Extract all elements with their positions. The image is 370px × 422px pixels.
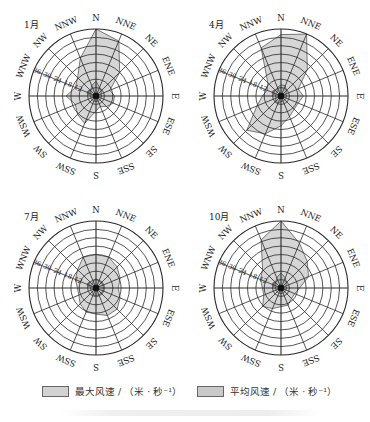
direction-label-n: N [277,13,285,23]
direction-label-ssw: SSW [240,160,263,177]
direction-label-sw: SW [217,335,235,353]
radial-tick-label: 30 [227,262,238,273]
center-hub [93,285,99,291]
radial-tick-label: 18 [63,79,74,90]
direction-label-sw: SW [32,335,50,353]
direction-label-wsw: WSW [14,305,32,331]
radial-tick-label: 24 [52,267,63,278]
direction-label-ne: NE [328,32,345,49]
panel-month-label: 7月 [24,212,39,222]
radial-tick-label: 36 [217,66,228,77]
radial-tick-label: 36 [217,258,228,269]
wind-rose-jul: NNNENEENEEESESESSESSSWSWWSWWWNWNWNNW6121… [13,205,180,372]
radial-tick-label: 36 [32,66,43,77]
radial-tick-label: 18 [248,79,259,90]
direction-label-ese: ESE [345,308,361,329]
legend-item-avg-speed: 平均风速 / （米 · 秒⁻¹） [197,384,337,398]
panel-month-label: 4月 [209,20,224,30]
direction-label-se: SE [144,336,160,352]
direction-label-ne: NE [143,224,160,241]
direction-label-sse: SSE [116,161,136,177]
caption-faint [60,410,320,416]
direction-label-ne: NE [328,224,345,241]
radial-tick-label: 36 [32,258,43,269]
direction-label-nnw: NNW [53,14,79,32]
direction-label-wnw: WNW [14,52,33,79]
direction-label-nw: NW [216,31,235,50]
center-hub [93,93,99,99]
radial-tick-label: 24 [237,75,248,86]
direction-label-se: SE [144,144,160,160]
wind-rose-figure: NNNENEENEEESESESSESSSWSWWSWWWNWNWNNW6121… [0,0,370,422]
radial-tick-label: 24 [52,75,63,86]
direction-label-ese: ESE [160,116,176,137]
legend-label-avg: 平均风速 / （米 · 秒⁻¹） [230,384,337,398]
direction-label-ese: ESE [160,308,176,329]
direction-label-ene: ENE [160,55,177,77]
legend-label-max: 最大风速 / （米 · 秒⁻¹） [75,384,182,398]
direction-label-nnw: NNW [53,206,79,224]
wind-rose-oct: NNNENEENEEESESESSESSSWSWWSWWWNWNWNNW6121… [198,205,365,372]
direction-label-sse: SSE [116,353,136,369]
direction-label-e: E [170,285,180,291]
direction-label-s: S [93,362,99,372]
direction-label-wnw: WNW [14,244,33,271]
direction-label-s: S [278,170,284,180]
radial-tick-label: 18 [248,271,259,282]
radial-tick-label: 24 [237,267,248,278]
wind-rose-apr: NNNENEENEEESESESSESSSWSWWSWWWNWNWNNW6121… [198,13,365,180]
direction-label-ne: NE [143,32,160,49]
direction-label-ene: ENE [345,55,362,77]
direction-label-w: W [13,91,23,100]
direction-label-nnw: NNW [238,14,264,32]
direction-label-nne: NNE [114,15,137,32]
direction-label-nne: NNE [114,207,137,224]
direction-label-se: SE [329,144,345,160]
direction-label-ssw: SSW [55,352,78,369]
direction-label-sw: SW [217,143,235,161]
radial-tick-label: 30 [42,70,53,81]
radial-tick-label: 30 [42,262,53,273]
direction-label-ene: ENE [345,247,362,269]
legend: 最大风速 / （米 · 秒⁻¹） 平均风速 / （米 · 秒⁻¹） [0,384,370,404]
panel-month-label: 1月 [24,20,39,30]
direction-label-ssw: SSW [240,352,263,369]
direction-label-se: SE [329,336,345,352]
direction-label-sse: SSE [301,161,321,177]
direction-label-sw: SW [32,143,50,161]
direction-label-nw: NW [216,223,235,242]
direction-label-n: N [92,205,100,215]
radial-tick-label: 30 [227,70,238,81]
direction-label-ene: ENE [160,247,177,269]
direction-label-e: E [170,93,180,99]
panel-month-label: 10月 [209,212,229,222]
direction-label-s: S [93,170,99,180]
radial-tick-label: 18 [63,271,74,282]
direction-label-w: W [13,283,23,292]
direction-label-w: W [198,91,208,100]
direction-label-e: E [355,285,365,291]
direction-label-n: N [92,13,100,23]
direction-label-nne: NNE [299,207,322,224]
direction-label-wnw: WNW [199,244,218,271]
direction-label-s: S [278,362,284,372]
direction-label-nne: NNE [299,15,322,32]
direction-label-nw: NW [31,223,50,242]
direction-label-nw: NW [31,31,50,50]
direction-label-wsw: WSW [199,305,217,331]
direction-label-nnw: NNW [238,206,264,224]
legend-item-max-speed: 最大风速 / （米 · 秒⁻¹） [42,384,182,398]
direction-label-w: W [198,283,208,292]
direction-label-ssw: SSW [55,160,78,177]
direction-label-wsw: WSW [199,113,217,139]
direction-label-n: N [277,205,285,215]
direction-label-sse: SSE [301,353,321,369]
direction-label-ese: ESE [345,116,361,137]
avg-speed-swatch [197,386,224,397]
direction-label-e: E [355,93,365,99]
max-speed-swatch [42,386,69,397]
direction-label-wsw: WSW [14,113,32,139]
wind-rose-jan: NNNENEENEEESESESSESSSWSWWSWWWNWNWNNW6121… [13,13,180,180]
center-hub [278,93,284,99]
center-hub [278,285,284,291]
